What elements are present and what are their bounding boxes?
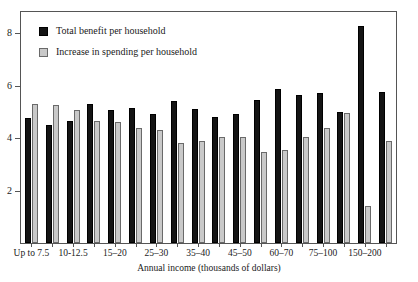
x-axis-tick-label: 150–200 [348,248,381,259]
bar-total-benefit [87,104,93,243]
y-axis-tick-label: 2 [7,186,12,196]
x-axis-tick-label: 60–70 [270,248,294,259]
bar-increase-spending [32,104,38,243]
bar-group [275,12,288,243]
bar-total-benefit [233,114,239,243]
legend-label: Total benefit per household [56,26,166,36]
x-axis-tick [73,243,74,247]
bar-total-benefit [275,89,281,243]
bar-increase-spending [324,128,330,244]
x-axis-tick-label: 45–50 [228,248,252,259]
bar-total-benefit [254,100,260,243]
bar-total-benefit [296,95,302,243]
bar-total-benefit [171,101,177,243]
bar-total-benefit [358,26,364,243]
bar-increase-spending [199,141,205,243]
bar-total-benefit [46,125,52,243]
legend-item-increase-spending: Increase in spending per household [39,47,197,57]
bar-group [254,12,267,243]
bar-total-benefit [150,114,156,243]
bar-group [212,12,225,243]
x-axis-title: Annual income (thousands of dollars) [0,263,418,274]
x-axis-tick [365,243,366,247]
bar-increase-spending [365,206,371,243]
bar-total-benefit [108,110,114,243]
x-axis-tick [323,243,324,247]
bar-group [337,12,350,243]
x-axis-tick [281,243,282,247]
bar-total-benefit [129,108,135,243]
bar-increase-spending [136,128,142,244]
bar-group [25,12,38,243]
bar-group [233,12,246,243]
bar-group [317,12,330,243]
legend-swatch-icon-light [39,48,48,57]
bar-increase-spending [261,152,267,243]
bar-increase-spending [178,143,184,243]
bar-group [358,12,371,243]
bar-chart-figure: 2468 Up to 7.510-12.515–2025–3035–4045–5… [0,0,418,282]
bar-total-benefit [25,118,31,243]
x-axis-tick [302,243,303,247]
x-axis-tick [261,243,262,247]
x-axis-tick-label: Up to 7.5 [14,248,50,259]
x-axis-tick-label: 35–40 [186,248,210,259]
bar-increase-spending [240,137,246,243]
x-axis-tick [386,243,387,247]
x-axis-tick-label: 15–20 [103,248,127,259]
bar-increase-spending [74,110,80,243]
bar-increase-spending [303,137,309,243]
bar-group [379,12,392,243]
x-axis-tick-label: 25–30 [145,248,169,259]
x-axis-tick [52,243,53,247]
bar-increase-spending [53,105,59,243]
bar-increase-spending [386,141,392,243]
chart-legend: Total benefit per household Increase in … [39,26,197,68]
x-axis-tick [136,243,137,247]
x-axis-tick [240,243,241,247]
legend-label: Increase in spending per household [56,47,197,57]
bar-total-benefit [317,93,323,243]
bar-increase-spending [219,137,225,243]
bar-increase-spending [282,150,288,243]
x-axis-tick [198,243,199,247]
y-axis-tick-label: 8 [7,28,12,38]
x-axis-tick [115,243,116,247]
legend-item-total-benefit: Total benefit per household [39,26,197,36]
bar-increase-spending [157,130,163,243]
bar-total-benefit [67,121,73,243]
y-axis-tick-label: 6 [7,81,12,91]
x-axis-tick-label: 10-12.5 [58,248,87,259]
bar-increase-spending [344,113,350,243]
x-axis-tick [156,243,157,247]
bar-total-benefit [337,112,343,243]
x-axis-tick [31,243,32,247]
x-axis-tick [94,243,95,247]
bar-increase-spending [94,121,100,243]
x-axis-tick [219,243,220,247]
bar-total-benefit [192,109,198,243]
x-axis-tick [177,243,178,247]
y-axis-tick-label: 4 [7,133,12,143]
bar-total-benefit [379,92,385,243]
legend-swatch-icon-dark [39,27,48,36]
x-axis-tick-label: 75–100 [309,248,338,259]
bar-total-benefit [212,117,218,243]
bar-increase-spending [115,122,121,243]
bar-group [296,12,309,243]
x-axis-tick [344,243,345,247]
